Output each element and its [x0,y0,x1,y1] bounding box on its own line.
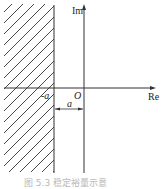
distance-label: a [67,98,72,109]
hatch-line [0,6,54,60]
real-axis-arrow [150,86,156,90]
hatch-line [0,105,54,159]
real-axis-label: Re [148,91,160,102]
dimension-arrow-right [78,108,83,111]
hatch-line [0,94,54,148]
hatch-line [0,17,54,71]
figure-caption: 图 5.3 稳定裕量示意 [24,177,107,188]
boundary-label: -a [41,90,49,101]
imag-axis-label: Im [72,5,83,16]
hatch-line [0,28,54,82]
hatch-line [0,116,54,170]
hatch-line [0,127,54,181]
origin-label: O [74,90,81,101]
dimension-arrow-left [55,108,60,111]
stability-margin-diagram: Im Re O -a a 图 5.3 稳定裕量示意 [0,0,163,189]
hatch-line [0,0,54,5]
hatch-line [0,39,54,93]
